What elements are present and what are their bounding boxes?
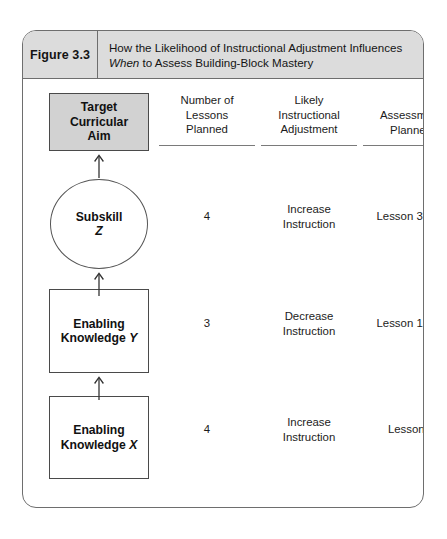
- column-rule-assessment: [363, 145, 424, 146]
- node-knowledge-x-line-1: Enabling: [61, 423, 138, 438]
- cell-adjustment-row-2: Decrease Instruction: [261, 309, 357, 338]
- column-header-adjustment-line-2: Instructional: [261, 108, 357, 123]
- node-knowledge-x-text: Knowledge: [61, 438, 129, 452]
- column-header-assessment-line-2: Planned: [363, 123, 424, 138]
- node-knowledge-y-text: Knowledge: [61, 331, 129, 345]
- cell-assessment-row-3: Lesson 4: [363, 422, 424, 437]
- figure-header: Figure 3.3 How the Likelihood of Instruc…: [23, 31, 423, 79]
- node-subskill-line-1: Subskill: [76, 210, 123, 225]
- node-target-curricular-aim: Target Curricular Aim: [49, 93, 149, 151]
- cell-assessment-row-2: Lesson 1 or 2: [363, 316, 424, 331]
- cell-adjustment-row-3-line-1: Increase: [261, 415, 357, 430]
- column-header-lessons-line-2: Lessons: [159, 108, 255, 123]
- arrow-up-icon: [93, 375, 105, 401]
- cell-lessons-row-2: 3: [159, 316, 255, 331]
- node-target-line-1: Target: [70, 100, 128, 115]
- cell-adjustment-row-3: Increase Instruction: [261, 415, 357, 444]
- node-knowledge-y-label: Enabling Knowledge Y: [61, 317, 138, 346]
- column-header-lessons-line-3: Planned: [159, 122, 255, 137]
- node-knowledge-y-line-2: Knowledge Y: [61, 331, 138, 346]
- column-header-assessment-line-1: Assessment: [363, 108, 424, 123]
- figure-title-cell: How the Likelihood of Instructional Adju…: [98, 31, 423, 78]
- column-header-assessment-planned: Assessment Planned: [363, 108, 424, 137]
- arrow-up-icon: [93, 153, 105, 179]
- node-subskill-line-2: Z: [76, 224, 123, 239]
- figure-title-line-2: When to Assess Building-Block Mastery: [109, 55, 423, 70]
- column-header-lessons-planned: Number of Lessons Planned: [159, 93, 255, 137]
- column-rule-adjustment: [261, 145, 357, 146]
- cell-lessons-row-3: 4: [159, 422, 255, 437]
- node-enabling-knowledge-y: Enabling Knowledge Y: [49, 289, 149, 373]
- cell-assessment-row-1: Lesson 3 or 4: [363, 209, 424, 224]
- column-header-adjustment-line-1: Likely: [261, 93, 357, 108]
- cell-adjustment-row-1: Increase Instruction: [261, 202, 357, 231]
- cell-adjustment-row-2-line-2: Instruction: [261, 324, 357, 339]
- column-header-adjustment-line-3: Adjustment: [261, 122, 357, 137]
- figure-number-label: Figure 3.3: [30, 48, 90, 62]
- node-target-label: Target Curricular Aim: [70, 100, 128, 144]
- cell-adjustment-row-1-line-1: Increase: [261, 202, 357, 217]
- node-knowledge-x-line-2: Knowledge X: [61, 438, 138, 453]
- node-subskill-z: Subskill Z: [50, 179, 148, 269]
- figure-body: Number of Lessons Planned Likely Instruc…: [23, 79, 423, 508]
- column-rule-lessons: [159, 145, 255, 146]
- column-header-likely-instructional-adjustment: Likely Instructional Adjustment: [261, 93, 357, 137]
- figure-container: Figure 3.3 How the Likelihood of Instruc…: [22, 30, 424, 508]
- node-target-line-3: Aim: [70, 129, 128, 144]
- node-target-line-2: Curricular: [70, 115, 128, 130]
- node-knowledge-y-line-1: Enabling: [61, 317, 138, 332]
- node-enabling-knowledge-x: Enabling Knowledge X: [49, 396, 149, 479]
- figure-title-line-1: How the Likelihood of Instructional Adju…: [109, 40, 423, 55]
- node-knowledge-x-label: Enabling Knowledge X: [61, 423, 138, 452]
- cell-lessons-row-1: 4: [159, 209, 255, 224]
- node-subskill-label: Subskill Z: [76, 210, 123, 239]
- cell-adjustment-row-2-line-1: Decrease: [261, 309, 357, 324]
- figure-title-line-2-rest: to Assess Building-Block Mastery: [139, 56, 313, 69]
- cell-adjustment-row-1-line-2: Instruction: [261, 217, 357, 232]
- figure-number-cell: Figure 3.3: [23, 31, 98, 78]
- arrow-up-icon: [93, 271, 105, 297]
- cell-adjustment-row-3-line-2: Instruction: [261, 430, 357, 445]
- figure-title-when-word: When: [109, 56, 139, 69]
- node-knowledge-x-letter: X: [129, 438, 137, 452]
- node-knowledge-y-letter: Y: [129, 331, 137, 345]
- column-header-lessons-line-1: Number of: [159, 93, 255, 108]
